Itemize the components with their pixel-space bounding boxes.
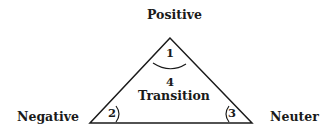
- left-angle-arc: [116, 106, 119, 122]
- angle-number-1: 1: [166, 48, 174, 60]
- angle-number-3: 3: [228, 108, 236, 120]
- angle-number-2: 2: [108, 108, 116, 120]
- center-label-transition: Transition: [138, 90, 210, 103]
- vertex-label-negative: Negative: [17, 111, 79, 124]
- vertex-label-neuter: Neuter: [270, 111, 319, 124]
- center-number-4: 4: [166, 77, 174, 89]
- apex-angle-arc: [153, 63, 186, 69]
- vertex-label-positive: Positive: [147, 9, 202, 22]
